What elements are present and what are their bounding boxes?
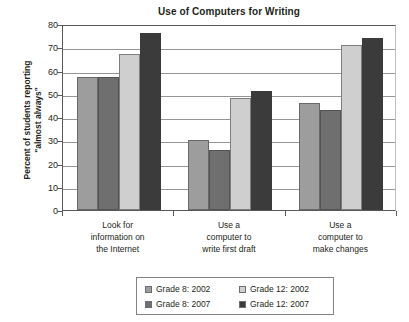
x-category-label: Use acomputer tomake changes	[275, 219, 405, 255]
legend-item[interactable]: Grade 12: 2007	[239, 299, 309, 309]
x-category-label-line: make changes	[275, 243, 405, 255]
bar	[188, 140, 209, 210]
y-tick-label: 50	[32, 90, 58, 100]
bar	[77, 77, 98, 210]
y-tick-label: 20	[32, 160, 58, 170]
bar	[320, 110, 341, 210]
y-tick-label: 30	[32, 136, 58, 146]
bar	[230, 98, 251, 210]
legend-label: Grade 12: 2007	[250, 299, 309, 309]
y-tick-label: 80	[32, 20, 58, 30]
bar	[341, 45, 362, 210]
bar	[98, 77, 119, 210]
bar	[362, 38, 383, 210]
bar	[251, 91, 272, 210]
y-tick-label: 70	[32, 43, 58, 53]
y-tick-label: 10	[32, 183, 58, 193]
legend-swatch-icon	[239, 301, 246, 308]
legend-swatch-icon	[145, 286, 152, 293]
x-tick-mark	[396, 211, 397, 216]
x-category-label-line: computer to	[275, 231, 405, 243]
y-tick-label: 0	[32, 206, 58, 216]
x-tick-mark	[173, 211, 174, 216]
x-category-label-line: Use a	[275, 219, 405, 231]
y-tick-label: 40	[32, 113, 58, 123]
chart-figure: Use of Computers for Writing Percent of …	[0, 0, 409, 322]
bar	[299, 103, 320, 210]
chart-legend: Grade 8: 2002Grade 12: 2002Grade 8: 2007…	[136, 277, 334, 315]
x-tick-mark	[62, 211, 63, 216]
bar	[209, 150, 230, 210]
y-tick-label: 60	[32, 67, 58, 77]
x-tick-mark	[285, 211, 286, 216]
legend-label: Grade 8: 2002	[156, 284, 210, 294]
bar	[140, 33, 161, 210]
plot-area	[62, 25, 396, 211]
bar	[119, 54, 140, 210]
legend-item[interactable]: Grade 8: 2007	[145, 299, 210, 309]
chart-title: Use of Computers for Writing	[62, 6, 396, 17]
legend-swatch-icon	[239, 286, 246, 293]
legend-item[interactable]: Grade 8: 2002	[145, 284, 210, 294]
legend-swatch-icon	[145, 301, 152, 308]
y-axis-title-line-1: Percent of students reporting	[22, 61, 32, 180]
legend-label: Grade 12: 2002	[250, 284, 309, 294]
legend-label: Grade 8: 2007	[156, 299, 210, 309]
legend-item[interactable]: Grade 12: 2002	[239, 284, 309, 294]
